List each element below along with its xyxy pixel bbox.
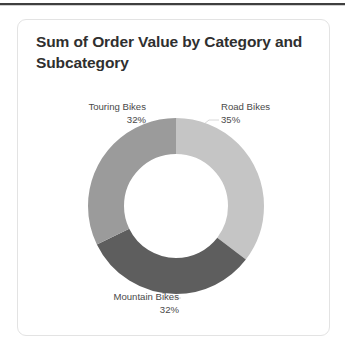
donut-ring: [106, 136, 246, 276]
data-label-mountain-bikes-percent: 32%: [51, 303, 179, 316]
data-label-road-bikes: Road Bikes 35%: [221, 100, 321, 126]
data-label-mountain-bikes-name: Mountain Bikes: [51, 290, 179, 303]
window-top-rule-shadow: [0, 5, 345, 6]
data-label-road-bikes-percent: 35%: [221, 113, 321, 126]
data-label-touring-bikes-percent: 32%: [38, 113, 146, 126]
data-label-mountain-bikes: Mountain Bikes 32%: [51, 290, 179, 316]
data-label-road-bikes-name: Road Bikes: [221, 100, 321, 113]
data-label-touring-bikes: Touring Bikes 32%: [38, 100, 146, 126]
data-label-touring-bikes-name: Touring Bikes: [38, 100, 146, 113]
chart-card: Sum of Order Value by Category and Subca…: [17, 19, 330, 336]
